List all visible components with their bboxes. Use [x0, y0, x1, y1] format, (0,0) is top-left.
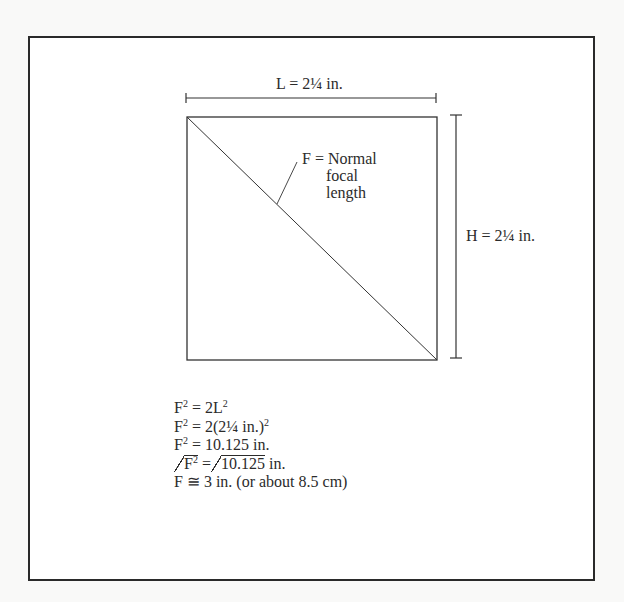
equations-block: F2 = 2L2 F2 = 2(2¼ in.)2 F2 = 10.125 in.… [174, 399, 347, 492]
eq2-rhs-exponent: 2 [264, 417, 269, 428]
eq4-radicand-exponent: 2 [193, 454, 198, 465]
width-label: L = 2¼ in. [276, 75, 343, 92]
diagonal-label: F = Normal focal length [302, 150, 377, 201]
sqrt-symbol-lhs: F2 [174, 455, 198, 474]
equation-2: F2 = 2(2¼ in.)2 [174, 418, 347, 437]
height-dimension-line [450, 115, 462, 358]
equation-1: F2 = 2L2 [174, 399, 347, 418]
eq4-equals: = [198, 455, 211, 472]
eq1-rhs-exponent: 2 [223, 398, 228, 409]
eq3-lhs: F [174, 436, 183, 453]
eq2-lhs: F [174, 418, 183, 435]
equation-4: F2 =10.125 in. [174, 455, 347, 474]
height-label: H = 2¼ in. [466, 227, 535, 244]
eq4-unit: in. [265, 455, 285, 472]
eq4-radicand-lhs: F [184, 455, 193, 472]
eq1-lhs: F [174, 399, 183, 416]
eq2-rhs: = 2(2¼ in.) [188, 418, 264, 435]
sqrt-symbol-rhs: 10.125 [211, 455, 265, 474]
equation-3: F2 = 10.125 in. [174, 436, 347, 455]
eq3-rhs: = 10.125 in. [188, 436, 269, 453]
leader-line [277, 162, 297, 204]
width-dimension-line [186, 93, 436, 103]
eq4-radicand-rhs: 10.125 [221, 455, 265, 472]
eq1-rhs: = 2L [188, 399, 223, 416]
equation-5: F ≅ 3 in. (or about 8.5 cm) [174, 473, 347, 492]
diagonal-label-line1: F = Normal [302, 150, 377, 167]
diagonal-label-line3: length [302, 184, 377, 201]
diagonal-label-line2: focal [302, 167, 377, 184]
